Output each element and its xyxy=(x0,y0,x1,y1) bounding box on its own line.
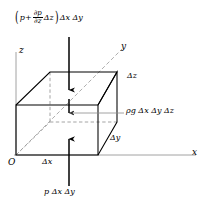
fluid-element-force-diagram xyxy=(0,0,203,207)
axes-group xyxy=(14,49,196,155)
y-axis-label: y xyxy=(121,42,126,51)
hidden-bottom-left-diagonal xyxy=(16,122,50,155)
delta-z-term: Δz xyxy=(44,13,54,22)
delta-z-label: Δz xyxy=(127,72,137,80)
delta-y-label: Δy xyxy=(110,134,120,142)
z-axis-label: z xyxy=(19,46,24,55)
weight-label: ρg Δx Δy Δz xyxy=(126,107,174,115)
hidden-edges-group xyxy=(16,72,117,155)
plus-sign: + xyxy=(25,13,32,22)
fluid-element-box xyxy=(16,72,117,155)
fraction-denominator: ∂z xyxy=(33,18,43,25)
origin-label: O xyxy=(8,158,15,167)
box-front-face xyxy=(16,105,98,155)
box-top-face xyxy=(16,72,117,105)
partial-derivative-fraction: ∂p∂z xyxy=(33,10,43,26)
box-right-face xyxy=(98,72,117,155)
area-term: Δx Δy xyxy=(60,13,83,22)
delta-x-label: Δx xyxy=(42,158,52,166)
x-axis-label: x xyxy=(192,148,197,157)
top-pressure-force-label: (p+∂p∂zΔz)Δx Δy xyxy=(14,10,83,26)
bottom-pressure-force-label: p Δx Δy xyxy=(44,188,75,196)
